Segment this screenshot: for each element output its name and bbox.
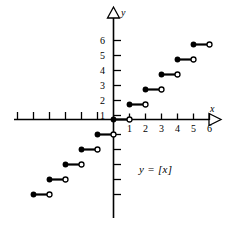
x-tick-label-2: 2 [143, 124, 148, 134]
y-tick-label-1: 1 [100, 111, 105, 121]
open-endpoint-circle [127, 117, 132, 122]
open-endpoint-circle [47, 192, 52, 197]
closed-endpoint-dot [175, 57, 181, 63]
closed-endpoint-dot [111, 117, 117, 123]
x-tick-label-3: 3 [159, 124, 164, 134]
open-endpoint-circle [95, 147, 100, 152]
x-tick-label-4: 4 [175, 124, 180, 134]
equation-annotation: y = [x] [139, 163, 172, 175]
closed-endpoint-dot [31, 192, 37, 198]
graph-canvas [0, 0, 226, 227]
open-endpoint-circle [175, 72, 180, 77]
open-endpoint-circle [191, 57, 196, 62]
open-endpoint-circle [63, 177, 68, 182]
y-axis-label: y [121, 8, 125, 18]
y-tick-label-4: 4 [100, 66, 105, 76]
step-function-figure: 6 5 4 3 2 1 1 2 3 4 5 6 y x y = [x] [0, 0, 226, 227]
y-tick-label-3: 3 [100, 81, 105, 91]
closed-endpoint-dot [95, 132, 101, 138]
open-endpoint-circle [79, 162, 84, 167]
open-endpoint-circle [143, 102, 148, 107]
closed-endpoint-dot [127, 102, 133, 108]
y-tick-label-6: 6 [100, 36, 105, 46]
x-axis-ticks-negative [18, 112, 98, 119]
y-tick-label-5: 5 [100, 51, 105, 61]
x-axis-label: x [210, 104, 214, 114]
y-tick-label-2: 2 [100, 96, 105, 106]
closed-endpoint-dot [191, 42, 197, 48]
closed-endpoint-dot [63, 162, 69, 168]
open-endpoint-circle [111, 132, 116, 137]
open-endpoint-circle [159, 87, 164, 92]
closed-endpoint-dot [79, 147, 85, 153]
x-tick-label-1: 1 [127, 124, 132, 134]
closed-endpoint-dot [159, 72, 165, 78]
y-axis-arrow-icon [108, 7, 120, 18]
x-tick-label-5: 5 [191, 124, 196, 134]
closed-endpoint-dot [47, 177, 53, 183]
open-endpoint-circle [207, 42, 212, 47]
closed-endpoint-dot [143, 87, 149, 93]
x-tick-label-6: 6 [207, 124, 212, 134]
